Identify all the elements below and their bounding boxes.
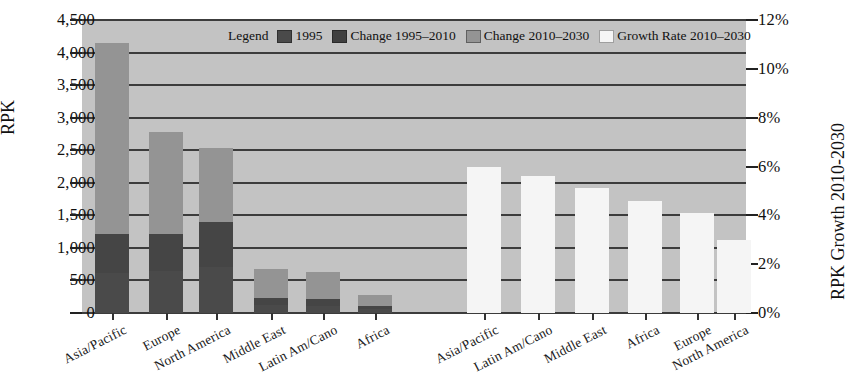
y-axis-left-tick-mark [70, 182, 82, 184]
y-axis-left-tick-mark [70, 84, 82, 86]
x-axis-category-label: Africa [623, 322, 662, 352]
y-axis-right-tick-mark [746, 19, 758, 21]
gridline [82, 52, 746, 54]
bar-segment-change-2010-2030 [358, 295, 392, 306]
bar-segment-change-2010-2030 [306, 272, 340, 299]
bar-segment-change-2010-2030 [199, 148, 233, 222]
bar-segment-1995 [199, 267, 233, 313]
y-axis-right-tick-label: 8% [758, 108, 780, 128]
x-axis-tick-mark [484, 313, 486, 320]
y-axis-right-tick-label: 6% [758, 157, 780, 177]
legend-item-change-1995-2010: Change 1995–2010 [332, 28, 455, 44]
legend-swatch-change-1995-2010 [332, 30, 347, 43]
y-axis-left-tick-mark [70, 247, 82, 249]
legend-item-change-2010-2030: Change 2010–2030 [466, 28, 589, 44]
bar-segment-1995 [95, 273, 129, 313]
legend-item-growth-rate: Growth Rate 2010–2030 [599, 28, 750, 44]
x-axis-tick-mark [697, 313, 699, 320]
bar-segment-change-1995-2010 [199, 222, 233, 268]
bar-growth-rate [521, 176, 555, 313]
y-axis-left-tick-mark [70, 19, 82, 21]
bar-rpk [199, 148, 233, 313]
bar-segment-change-1995-2010 [306, 299, 340, 306]
legend-swatch-change-2010-2030 [466, 30, 481, 43]
legend-label-change-2010-2030: Change 2010–2030 [484, 28, 589, 44]
y-axis-right-tick-mark [746, 214, 758, 216]
bar-segment-1995 [254, 305, 288, 313]
y-axis-left-tick-mark [70, 149, 82, 151]
bar-segment-growth-rate [467, 167, 501, 314]
legend-item-1995: 1995 [277, 28, 322, 44]
bar-segment-change-2010-2030 [149, 132, 183, 234]
bar-segment-growth-rate [717, 240, 751, 313]
bar-rpk [306, 272, 340, 313]
x-axis-tick-mark [323, 313, 325, 320]
y-axis-right-tick-label: 4% [758, 205, 780, 225]
legend-label-1995: 1995 [295, 28, 322, 44]
bar-segment-1995 [149, 271, 183, 313]
y-axis-right-tick-mark [746, 166, 758, 168]
rpk-growth-chart: RPK RPK Growth 2010-2030 Legend 1995 Cha… [0, 0, 847, 385]
y-axis-right-tick-label: 0% [758, 303, 780, 323]
legend-swatch-1995 [277, 30, 292, 43]
y-axis-right-tick-label: 2% [758, 254, 780, 274]
bar-rpk [254, 269, 288, 313]
x-axis-category-label: Asia/Pacific [61, 322, 129, 367]
bar-segment-change-2010-2030 [95, 43, 129, 234]
x-axis-tick-mark [645, 313, 647, 320]
gridline [82, 84, 746, 86]
y-axis-left-title: RPK [0, 100, 19, 135]
gridline [82, 117, 746, 119]
x-axis-tick-mark [538, 313, 540, 320]
bar-growth-rate [467, 167, 501, 314]
y-axis-left-tick-mark [70, 117, 82, 119]
bar-segment-growth-rate [628, 201, 662, 313]
legend-label-growth-rate: Growth Rate 2010–2030 [617, 28, 750, 44]
bar-growth-rate [717, 240, 751, 313]
x-axis-tick-mark [271, 313, 273, 320]
y-axis-right-tick-label: 10% [758, 59, 789, 79]
legend-label-change-1995-2010: Change 1995–2010 [350, 28, 455, 44]
legend-swatch-growth-rate [599, 30, 614, 43]
x-axis-tick-mark [592, 313, 594, 320]
y-axis-right-tick-mark [746, 68, 758, 70]
y-axis-left-tick-mark [70, 279, 82, 281]
bar-rpk [95, 43, 129, 313]
x-axis-tick-mark [216, 313, 218, 320]
bar-segment-growth-rate [575, 188, 609, 313]
bar-growth-rate [628, 201, 662, 313]
y-axis-left-tick-label: 0 [87, 303, 95, 323]
x-axis-category-label: Africa [353, 322, 392, 352]
x-axis-tick-mark [734, 313, 736, 320]
bar-segment-change-1995-2010 [95, 234, 129, 273]
gridline [82, 19, 746, 21]
legend-title: Legend [228, 28, 268, 44]
y-axis-left-tick-mark [70, 312, 82, 314]
bar-segment-growth-rate [680, 213, 714, 313]
bar-segment-growth-rate [521, 176, 555, 313]
y-axis-left-tick-mark [70, 52, 82, 54]
bar-growth-rate [575, 188, 609, 313]
x-axis-tick-mark [166, 313, 168, 320]
y-axis-left-tick-mark [70, 214, 82, 216]
y-axis-right-title: RPK Growth 2010-2030 [828, 123, 847, 300]
bar-growth-rate [680, 213, 714, 313]
x-axis-tick-mark [112, 313, 114, 320]
bar-rpk [149, 132, 183, 313]
y-axis-right-tick-label: 12% [758, 10, 789, 30]
bar-segment-change-1995-2010 [254, 298, 288, 305]
bar-segment-change-2010-2030 [254, 269, 288, 298]
y-axis-right-tick-mark [746, 117, 758, 119]
x-axis-tick-mark [375, 313, 377, 320]
bar-segment-1995 [306, 306, 340, 313]
bar-segment-change-1995-2010 [149, 234, 183, 272]
bar-rpk [358, 295, 392, 313]
chart-legend: Legend 1995 Change 1995–2010 Change 2010… [228, 28, 761, 44]
